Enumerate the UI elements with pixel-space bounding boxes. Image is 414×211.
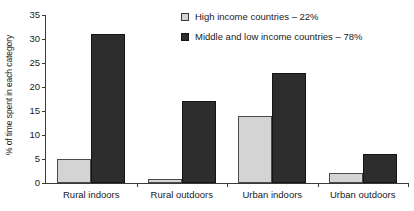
y-axis-tick-mark	[42, 111, 46, 112]
x-axis-tick-mark	[318, 183, 319, 187]
y-axis-tick-mark	[42, 87, 46, 88]
legend-item: Middle and low income countries – 78%	[181, 29, 362, 44]
y-axis-tick-label: 30	[29, 33, 40, 44]
y-axis-tick-mark	[42, 183, 46, 184]
legend-item: High income countries – 22%	[181, 9, 362, 24]
light-square-swatch	[181, 13, 189, 21]
y-axis-tick-mark	[42, 15, 46, 16]
x-axis-label: Urban outdoors	[318, 189, 409, 201]
y-axis-tick-mark	[42, 39, 46, 40]
chart-legend: High income countries – 22%Middle and lo…	[181, 9, 362, 49]
y-axis-tick-label: 10	[29, 129, 40, 140]
x-axis-label: Urban indoors	[227, 189, 318, 201]
y-axis-tick-mark	[42, 159, 46, 160]
bar-group	[57, 15, 125, 183]
y-axis-tick-label: 5	[35, 153, 40, 164]
bar	[148, 179, 182, 183]
bar-chart: % of time spent in each category 0510152…	[0, 0, 414, 211]
dark-square-swatch	[181, 33, 189, 41]
y-axis-tick-label: 0	[35, 177, 40, 188]
x-axis-label: Rural outdoors	[137, 189, 228, 201]
bar	[329, 173, 363, 183]
y-axis-tick-label: 25	[29, 57, 40, 68]
legend-item-label: Middle and low income countries – 78%	[195, 31, 362, 42]
x-axis-label: Rural indoors	[46, 189, 137, 201]
x-axis-tick-mark	[227, 183, 228, 187]
y-axis-tick-mark	[42, 135, 46, 136]
x-axis-tick-mark	[408, 183, 409, 187]
y-axis-title-text: % of time spent in each category	[4, 35, 14, 155]
x-axis-tick-mark	[137, 183, 138, 187]
bar	[238, 116, 272, 183]
bar	[363, 154, 397, 183]
y-axis-title: % of time spent in each category	[0, 0, 18, 190]
y-axis-tick-label: 35	[29, 9, 40, 20]
y-axis-tick-label: 20	[29, 81, 40, 92]
bar	[272, 73, 306, 183]
y-axis-tick-label: 15	[29, 105, 40, 116]
bar	[91, 34, 125, 183]
bar	[57, 159, 91, 183]
bar	[182, 101, 216, 183]
y-axis-tick-mark	[42, 63, 46, 64]
legend-item-label: High income countries – 22%	[195, 11, 319, 22]
